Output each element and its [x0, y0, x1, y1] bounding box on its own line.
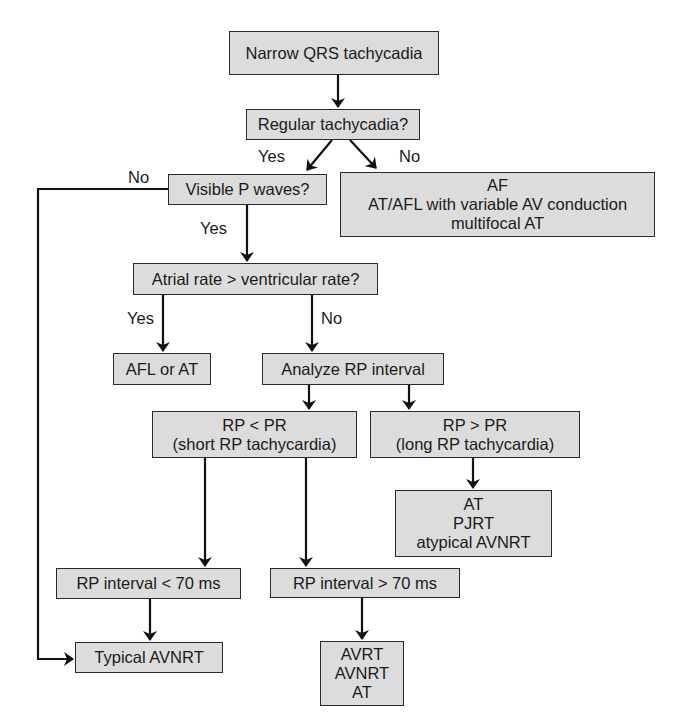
label-atrial-rate-yes: Yes [127, 309, 154, 327]
node-text: (short RP tachycardia) [173, 435, 337, 454]
node-text: atypical AVNRT [416, 533, 530, 552]
node-text: (long RP tachycardia) [396, 435, 554, 454]
node-rp-interval-less-70: RP interval < 70 ms [56, 568, 241, 599]
arrow-regular-no [350, 140, 376, 168]
node-text: AFL or AT [126, 360, 198, 379]
label-atrial-rate-no: No [321, 309, 342, 327]
node-text: Analyze RP interval [281, 360, 425, 379]
node-text: AF [487, 176, 508, 195]
label-regular-yes: Yes [258, 147, 285, 165]
node-af-group: AF AT/AFL with variable AV conduction mu… [340, 172, 655, 237]
node-afl-or-at: AFL or AT [113, 353, 211, 385]
node-rp-interval-greater-70: RP interval > 70 ms [270, 568, 460, 598]
node-analyze-rp-interval: Analyze RP interval [262, 353, 444, 385]
node-short-rp-diagnoses: AVRT AVNRT AT [320, 641, 404, 706]
node-text: AT/AFL with variable AV conduction [368, 195, 627, 214]
node-long-rp-diagnoses: AT PJRT atypical AVNRT [395, 490, 552, 557]
node-text: RP interval > 70 ms [293, 574, 437, 593]
node-text: Regular tachycadia? [258, 115, 408, 134]
node-text: AT [352, 683, 372, 702]
node-visible-p-waves: Visible P waves? [168, 174, 327, 205]
node-rp-greater-than-pr: RP > PR (long RP tachycardia) [370, 411, 580, 458]
node-text: multifocal AT [451, 214, 544, 233]
node-text: AVNRT [335, 664, 389, 683]
node-text: Typical AVNRT [94, 648, 203, 667]
node-text: Narrow QRS tachycadia [246, 44, 423, 63]
label-regular-no: No [399, 147, 420, 165]
node-atrial-rate: Atrial rate > ventricular rate? [133, 263, 378, 295]
label-visible-p-no: No [128, 168, 149, 186]
node-text: PJRT [453, 514, 494, 533]
label-visible-p-yes: Yes [200, 219, 227, 237]
node-rp-less-than-pr: RP < PR (short RP tachycardia) [152, 411, 357, 458]
node-narrow-qrs-tachycardia: Narrow QRS tachycadia [229, 31, 439, 75]
node-regular-tachycardia: Regular tachycadia? [246, 109, 420, 140]
node-text: RP > PR [443, 416, 507, 435]
node-text: RP interval < 70 ms [76, 574, 220, 593]
node-text: Visible P waves? [185, 180, 309, 199]
node-typical-avnrt: Typical AVNRT [75, 642, 223, 673]
node-text: RP < PR [222, 416, 286, 435]
node-text: AT [464, 495, 484, 514]
node-text: AVRT [341, 645, 383, 664]
arrow-regular-yes [307, 140, 332, 170]
node-text: Atrial rate > ventricular rate? [152, 270, 360, 289]
